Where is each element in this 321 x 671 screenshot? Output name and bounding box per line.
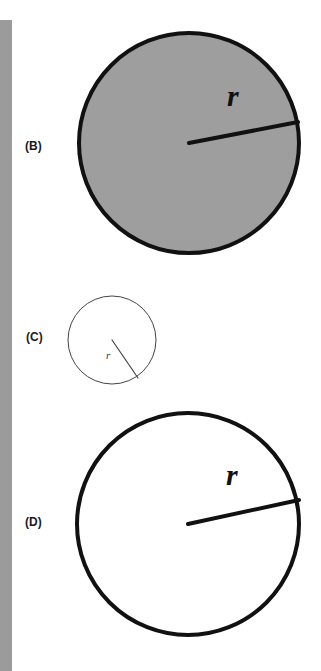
left-margin-strip [0,20,12,671]
figure-page: (B) r (C) r (D) r [0,0,321,671]
circle-figure-d: r [68,403,313,648]
circle-figure-b: r [70,18,315,273]
panel-label-c: (C) [26,331,43,343]
circle-d-radius-label: r [226,458,238,491]
panel-label-b: (B) [25,140,42,152]
panel-label-d: (D) [25,516,42,528]
circle-figure-c: r [62,291,167,391]
circle-b-radius-label: r [227,79,239,112]
circle-c-radius-label: r [106,349,111,361]
